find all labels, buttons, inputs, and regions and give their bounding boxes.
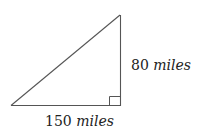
vertical-side-value: 80: [131, 57, 149, 73]
horizontal-side-unit: miles: [76, 113, 114, 129]
horizontal-side-value: 150: [45, 113, 72, 129]
vertical-side-label: 80 miles: [131, 58, 191, 72]
horizontal-side-label: 150 miles: [45, 114, 114, 128]
right-angle-marker: [110, 97, 121, 106]
hypotenuse-side: [11, 15, 120, 106]
vertical-side-unit: miles: [153, 57, 191, 73]
